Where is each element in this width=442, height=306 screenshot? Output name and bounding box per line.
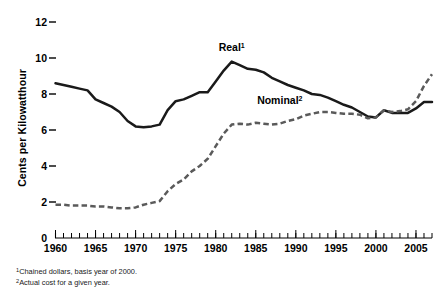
footnote-2-text: Actual cost for a given year. xyxy=(19,278,110,287)
footnote-1-text: Chained dollars, basis year of 2000. xyxy=(19,267,137,276)
y-tick-label-8: 8 xyxy=(41,88,47,100)
x-tick-label-1960: 1960 xyxy=(44,242,68,254)
x-tick-label-1995: 1995 xyxy=(324,242,348,254)
line-chart-plot: Cents per Kilowatthour 12 10 8 6 4 2 0 1… xyxy=(0,0,442,306)
x-tick-label-1990: 1990 xyxy=(284,242,308,254)
y-tick-label-12: 12 xyxy=(35,16,47,28)
x-tick-label-1975: 1975 xyxy=(164,242,188,254)
real-series-label: Real1 xyxy=(219,41,245,53)
x-axis-major-ticks: 1960196519701975198019851990199520002005 xyxy=(44,230,428,254)
footnote-1: 1Chained dollars, basis year of 2000. xyxy=(16,266,426,277)
nominal-series-line xyxy=(56,74,433,208)
x-tick-label-1965: 1965 xyxy=(84,242,108,254)
y-axis-ticks: 12 10 8 6 4 2 0 xyxy=(35,16,56,244)
chart-footnotes: 1Chained dollars, basis year of 2000. 2A… xyxy=(16,266,426,288)
y-tick-label-10: 10 xyxy=(35,52,47,64)
footnote-2: 2Actual cost for a given year. xyxy=(16,277,426,288)
chart-figure: Cents per Kilowatthour 12 10 8 6 4 2 0 1… xyxy=(0,0,442,306)
y-tick-label-6: 6 xyxy=(41,124,47,136)
x-tick-label-1970: 1970 xyxy=(124,242,148,254)
x-tick-label-2005: 2005 xyxy=(404,242,428,254)
x-tick-label-1985: 1985 xyxy=(244,242,268,254)
y-tick-label-2: 2 xyxy=(41,196,47,208)
y-axis-label: Cents per Kilowatthour xyxy=(16,69,28,187)
x-tick-label-2000: 2000 xyxy=(364,242,388,254)
y-tick-label-4: 4 xyxy=(41,160,47,172)
nominal-series-label: Nominal2 xyxy=(257,94,302,106)
x-tick-label-1980: 1980 xyxy=(204,242,228,254)
